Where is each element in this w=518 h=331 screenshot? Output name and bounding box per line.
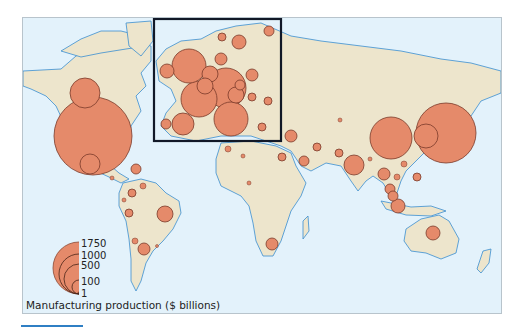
bubble-turkey [285,130,297,142]
legend-title: Manufacturing production ($ billions) [26,299,220,311]
bubble-canada [70,78,100,108]
africa-land [216,141,306,256]
bubble-austria [235,80,245,90]
bubble-uruguay [156,245,159,248]
indonesia-land [381,201,446,216]
legend-label-1: 1 [81,289,87,299]
bubble-czech-republic [248,93,256,101]
bubble-chile [132,238,138,244]
bubble-netherlands [197,78,213,94]
bubble-russia [338,118,342,122]
bubble-bangladesh [368,157,372,161]
bubble-saudi-arabia [299,156,309,166]
bubble-united-kingdom [172,49,206,83]
new-zealand-land [477,249,491,273]
bubble-morocco [225,146,231,152]
bubble-caribbean [131,164,141,174]
legend-label-500: 500 [81,261,100,271]
bubble-south-africa [266,238,278,250]
bubble-colombia [128,189,136,197]
bubble-taiwan [401,161,407,167]
bubble-denmark [215,53,227,65]
bubble-ireland [160,64,174,78]
bubble-iran [313,143,321,151]
bubble-vietnam [394,174,400,180]
legend-label-1750: 1750 [81,239,106,249]
bubble-argentina [138,243,150,255]
south-america-land [119,179,181,291]
bubble-norway [218,33,226,41]
bubble-philippines [413,173,421,181]
bubble-venezuela [140,183,146,189]
bubble-pakistan [335,149,343,157]
legend-circles [53,242,79,294]
bubble-china [370,117,412,159]
bubble-egypt [278,153,286,161]
bubble-spain [172,113,194,135]
bubble-finland [264,26,274,36]
bubble-algeria [241,154,245,158]
bubble-central-america [110,176,114,180]
madagascar-land [303,216,309,239]
bubble-brazil [157,206,173,222]
bubble-poland [246,69,258,81]
bubble-south-korea [414,124,438,148]
bubble-thailand [378,168,390,180]
bubble-sweden [232,35,246,49]
legend-label-100: 100 [81,277,100,287]
bubble-peru [125,209,133,217]
bottom-rule [21,325,83,327]
bubble-australia [426,226,440,240]
bubble-italy [214,102,248,136]
bubble-romania [264,97,272,105]
bubble-nigeria [247,181,251,185]
bubble-ecuador [122,198,126,202]
bubble-greece [258,123,266,131]
bubble-portugal [161,119,171,129]
bubble-singapore [388,191,398,201]
bubble-mexico [80,154,100,174]
bubble-india [344,155,364,175]
